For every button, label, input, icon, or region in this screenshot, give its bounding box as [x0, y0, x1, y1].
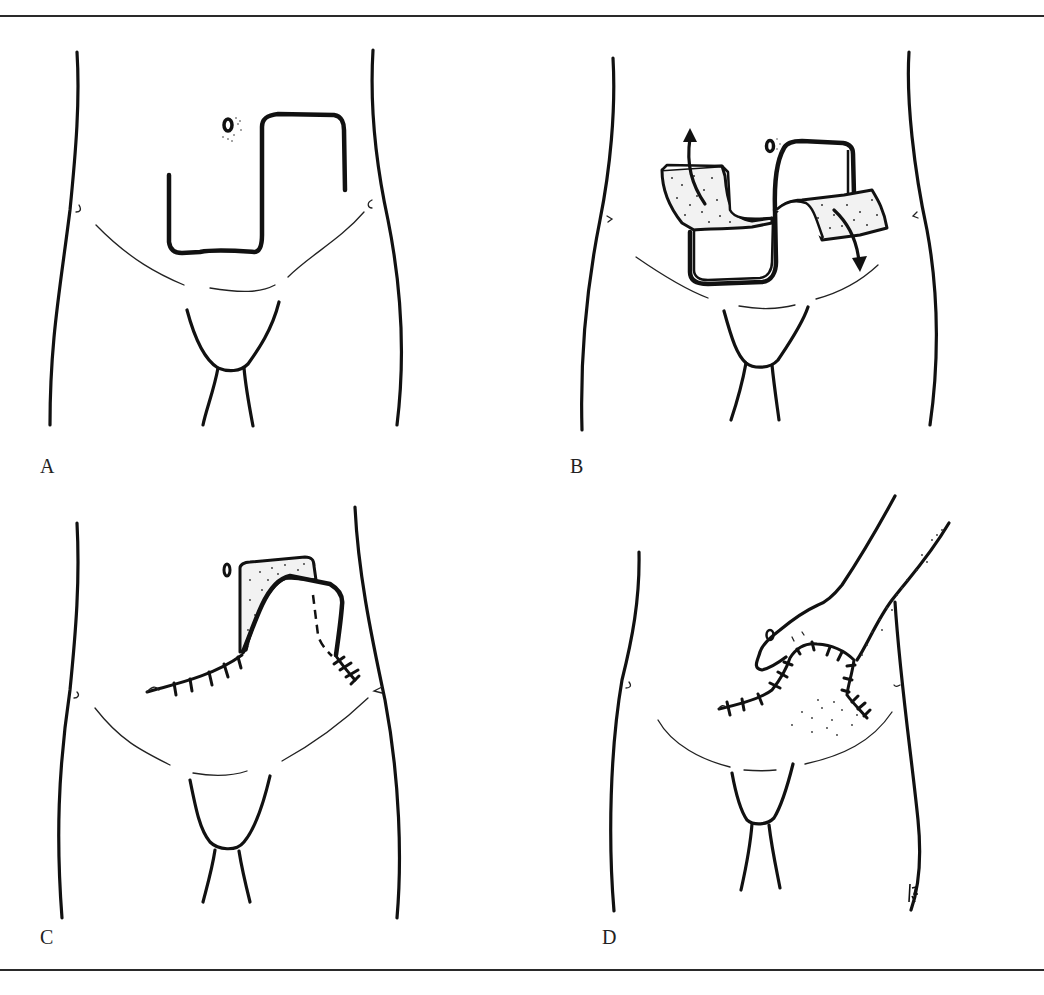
arrow-down-head-icon [852, 256, 867, 272]
panel-c: C [0, 480, 522, 969]
panel-c-drawing [0, 480, 522, 969]
panel-b: B [522, 0, 1044, 480]
panel-d-drawing [522, 480, 1044, 969]
umbilicus-c [224, 564, 230, 576]
panel-b-drawing [522, 0, 1044, 480]
arrow-up-head-icon [683, 128, 697, 142]
umbilicus-a [224, 119, 232, 131]
panel-label-a: A [40, 455, 54, 478]
panel-a: A [0, 0, 522, 480]
umbilicus-b [767, 141, 774, 152]
artist-signature [906, 882, 922, 906]
panel-a-drawing [0, 0, 522, 480]
panel-label-c: C [40, 926, 53, 949]
suture-line-d [719, 644, 867, 718]
panel-label-d: D [602, 926, 616, 949]
bottom-rule [0, 969, 1044, 971]
panel-label-b: B [570, 455, 583, 478]
panel-d: D [522, 480, 1044, 969]
